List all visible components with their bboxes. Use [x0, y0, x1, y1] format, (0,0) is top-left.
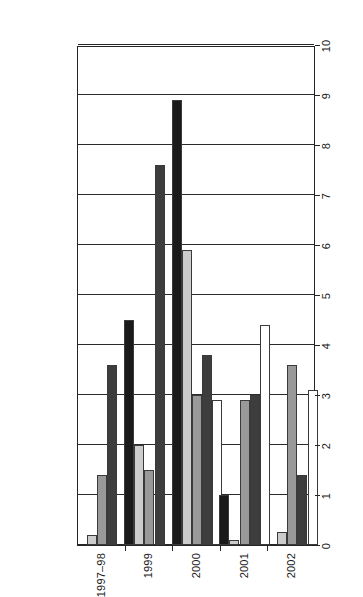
gridline: [78, 94, 314, 95]
rotated-chart-wrapper: 012345678910 1997–981999200020012002: [0, 0, 363, 597]
category-axis-tick: [125, 546, 126, 551]
value-axis-label: 8: [320, 131, 333, 161]
value-axis-label: 4: [320, 331, 333, 361]
gridline: [78, 294, 314, 295]
bar: [277, 533, 287, 546]
bar: [134, 445, 144, 545]
gridline: [78, 244, 314, 245]
bar: [107, 365, 117, 545]
gridline: [78, 144, 314, 145]
bar: [97, 475, 107, 545]
value-axis-label: 9: [320, 81, 333, 111]
gridline: [78, 44, 314, 45]
category-axis-label: 2001: [238, 553, 250, 578]
bar: [182, 250, 192, 545]
category-axis-label: 2002: [285, 553, 297, 578]
value-axis-label: 10: [320, 31, 333, 61]
value-axis-label: 7: [320, 181, 333, 211]
value-axis: 012345678910: [315, 46, 339, 546]
category-axis-tick: [267, 546, 268, 551]
category-axis: 1997–981999200020012002: [77, 546, 315, 576]
bar: [172, 100, 182, 545]
bar: [250, 395, 260, 545]
value-axis-label: 2: [320, 431, 333, 461]
bar: [219, 495, 229, 545]
category-axis-label: 2000: [190, 553, 202, 578]
bar: [297, 475, 307, 545]
bar: [229, 540, 239, 545]
bar: [287, 365, 297, 545]
category-axis-tick: [172, 546, 173, 551]
bar: [87, 535, 97, 545]
bar: [260, 325, 270, 545]
chart-canvas: 012345678910 1997–981999200020012002: [67, 31, 340, 576]
category-axis-label: 1997–98: [95, 553, 107, 597]
bar: [144, 470, 154, 545]
bar: [124, 320, 134, 545]
category-axis-label: 1999: [142, 553, 154, 578]
value-axis-label: 5: [320, 281, 333, 311]
value-axis-label: 6: [320, 231, 333, 261]
chart-figure: 012345678910 1997–981999200020012002 Poo…: [0, 0, 363, 597]
value-axis-label: 3: [320, 381, 333, 411]
value-axis-label: 0: [320, 531, 333, 561]
value-axis-label: 1: [320, 481, 333, 511]
bar: [155, 165, 165, 545]
gridline: [78, 344, 314, 345]
plot-area: [77, 46, 315, 546]
bar: [202, 355, 212, 545]
category-axis-tick: [220, 546, 221, 551]
bar: [192, 395, 202, 545]
bar: [240, 400, 250, 545]
gridline: [78, 194, 314, 195]
